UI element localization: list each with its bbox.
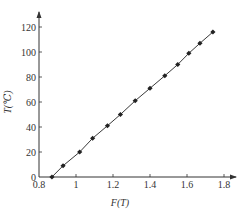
x-axis-label: F(T): [110, 197, 130, 209]
y-tick-label: 120: [21, 22, 36, 33]
y-tick-label: 0: [31, 172, 36, 183]
y-tick-label: 60: [26, 97, 36, 108]
y-axis-label: T(℃): [2, 90, 14, 114]
y-tick-label: 20: [26, 147, 36, 158]
x-tick-label: 1.8: [218, 179, 231, 190]
y-tick-label: 80: [26, 72, 36, 83]
y-tick-label: 100: [21, 47, 36, 58]
x-tick-label: 1: [74, 179, 79, 190]
chart-canvas: 0.811.21.41.61.8 020406080100120 F(T) T(…: [0, 0, 251, 210]
axes: [39, 12, 236, 177]
x-ticks: 0.811.21.41.61.8: [33, 174, 231, 190]
data-series: [49, 29, 215, 179]
x-tick-label: 1.2: [107, 179, 120, 190]
y-tick-label: 40: [26, 122, 36, 133]
x-tick-label: 1.6: [181, 179, 194, 190]
x-tick-label: 1.4: [144, 179, 157, 190]
